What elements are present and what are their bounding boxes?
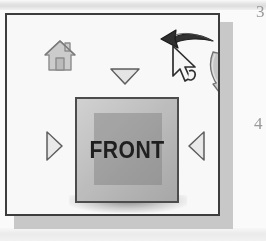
cube-face-label: FRONT <box>81 99 173 201</box>
home-icon[interactable] <box>41 37 79 73</box>
mouse-pointer-icon <box>170 45 204 89</box>
viewcube-panel-inner: FRONT <box>7 15 218 214</box>
rotate-left-arrow[interactable] <box>188 131 206 161</box>
scan-artifact-top <box>0 0 266 10</box>
scan-artifact-bottom <box>0 228 266 241</box>
margin-number-mid: 4 <box>254 114 266 134</box>
viewcube-panel: FRONT <box>5 13 220 216</box>
roll-clockwise-arrow[interactable] <box>205 48 218 106</box>
view-cube[interactable]: FRONT <box>75 97 179 203</box>
margin-number-top: 3 <box>256 2 266 22</box>
figure-page: FRONT <box>0 0 266 241</box>
rotate-right-arrow[interactable] <box>45 131 63 161</box>
rotate-down-arrow[interactable] <box>110 67 140 85</box>
